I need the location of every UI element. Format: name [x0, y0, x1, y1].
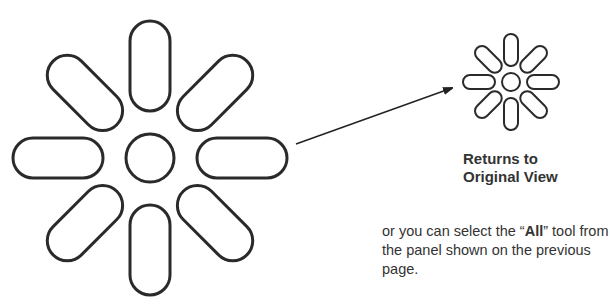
instruction-note: or you can select the “All” tool from th…	[382, 222, 610, 279]
caption-line1: Returns to	[463, 150, 558, 168]
note-line1: or you can select the “All” tool from	[382, 222, 610, 241]
arrow	[296, 88, 452, 144]
large-original-view-icon	[13, 21, 287, 295]
caption-line2: Original View	[463, 168, 558, 186]
all-tool-name: All	[525, 223, 544, 239]
caption: Returns to Original View	[463, 150, 558, 186]
note-text: ” tool from	[543, 223, 608, 239]
small-original-view-icon	[463, 34, 559, 130]
note-line2: the panel shown on the previous page.	[382, 241, 610, 279]
note-text: or you can select the “	[382, 223, 525, 239]
